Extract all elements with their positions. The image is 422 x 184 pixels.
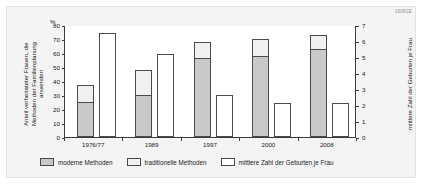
bar-methods-1989	[135, 70, 152, 137]
bar-segment-modern-2000	[253, 56, 268, 136]
right-tick-5: 5	[362, 55, 365, 61]
bar-births-1976/77	[99, 33, 116, 137]
bar-methods-2008	[310, 35, 327, 137]
bars-container	[65, 26, 355, 137]
right-tick-2: 2	[362, 103, 365, 109]
left-tick-60: 60	[48, 51, 60, 57]
x-label-2000: 2000	[239, 141, 297, 148]
left-tick-50: 50	[48, 65, 60, 71]
bar-segment-modern-1989	[136, 95, 151, 136]
legend-swatch-births	[221, 158, 235, 166]
x-label-2008: 2008	[298, 141, 356, 148]
legend-label-births: mittlere Zahl der Geburten je Frau	[239, 159, 334, 166]
legend-item-modern: moderne Methoden	[40, 158, 113, 166]
right-tick-1: 1	[362, 119, 365, 125]
legend-label-trad: traditionelle Methoden	[145, 159, 207, 166]
right-tick-mark	[356, 58, 359, 59]
x-label-1997: 1997	[181, 141, 239, 148]
legend-swatch-trad	[127, 158, 141, 166]
right-tick-4: 4	[362, 71, 365, 77]
left-tick-70: 70	[48, 37, 60, 43]
legend-item-births: mittlere Zahl der Geburten je Frau	[221, 158, 334, 166]
right-tick-mark	[356, 26, 359, 27]
legend-label-modern: moderne Methoden	[58, 159, 113, 166]
bar-births-1989	[157, 54, 174, 137]
plot-area	[64, 26, 356, 138]
legend-item-trad: traditionelle Methoden	[127, 158, 207, 166]
bar-segment-modern-1976/77	[78, 102, 93, 136]
bar-methods-1976/77	[77, 85, 94, 137]
chart-figure: 16082E % Anteil verheirateter Frauen, di…	[0, 0, 422, 184]
x-label-1989: 1989	[122, 141, 180, 148]
left-tick-80: 80	[48, 23, 60, 29]
x-label-1976/77: 1976/77	[64, 141, 122, 148]
bar-segment-modern-2008	[311, 49, 326, 136]
bar-births-2008	[332, 103, 349, 137]
right-tick-0: 0	[362, 135, 365, 141]
left-axis-title: Anteil verheirateter Frauen, die Methode…	[22, 26, 45, 142]
right-tick-mark	[356, 106, 359, 107]
right-tick-mark	[356, 90, 359, 91]
legend-swatch-modern	[40, 158, 54, 166]
right-tick-mark	[356, 122, 359, 123]
right-tick-mark	[356, 42, 359, 43]
right-axis-title: mittlere Zahl der Geburten je Frau	[406, 26, 414, 142]
x-tick-2008	[356, 138, 357, 141]
bar-methods-2000	[252, 39, 269, 137]
left-tick-30: 30	[48, 93, 60, 99]
left-tick-10: 10	[48, 121, 60, 127]
left-tick-20: 20	[48, 107, 60, 113]
bar-births-2000	[274, 103, 291, 137]
bar-segment-modern-1997	[195, 58, 210, 136]
left-tick-0: 0	[48, 135, 60, 141]
right-tick-3: 3	[362, 87, 365, 93]
right-tick-mark	[356, 74, 359, 75]
figure-code: 16082E	[395, 9, 412, 14]
bar-methods-1997	[194, 42, 211, 137]
right-tick-7: 7	[362, 23, 365, 29]
bar-births-1997	[216, 95, 233, 137]
chart-legend: moderne Methodentraditionelle Methodenmi…	[40, 158, 347, 166]
right-tick-6: 6	[362, 39, 365, 45]
left-tick-40: 40	[48, 79, 60, 85]
